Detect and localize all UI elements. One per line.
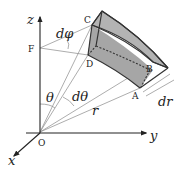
dr-label: dr: [158, 94, 173, 109]
volume-element: [88, 11, 168, 88]
z-axis-label: z: [26, 12, 34, 27]
spherical-volume-element-diagram: z y x O F C D A B θ dθ dφ r dr: [0, 0, 188, 173]
point-b-label: B: [146, 64, 153, 74]
origin-label: O: [38, 138, 45, 148]
d-theta-label: dθ: [72, 89, 88, 104]
r-label: r: [92, 103, 99, 118]
theta-label: θ: [46, 90, 54, 105]
d-phi-label: dφ: [56, 26, 74, 41]
point-d-label: D: [86, 59, 93, 69]
x-axis-label: x: [8, 153, 16, 168]
x-axis: [14, 133, 40, 156]
y-axis-label: y: [149, 128, 158, 143]
point-c-label: C: [84, 15, 91, 25]
point-a-label: A: [131, 91, 139, 101]
point-f-label: F: [28, 44, 34, 54]
